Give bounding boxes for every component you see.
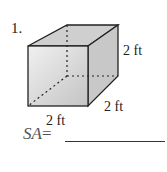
surface-area-prompt: SA=	[23, 124, 51, 144]
cube-diagram	[0, 0, 167, 172]
equals-sign: =	[42, 124, 52, 143]
height-label: 2 ft	[123, 43, 142, 59]
sa-label: SA	[23, 124, 42, 143]
answer-blank[interactable]	[65, 141, 165, 142]
depth-label: 2 ft	[104, 99, 123, 115]
